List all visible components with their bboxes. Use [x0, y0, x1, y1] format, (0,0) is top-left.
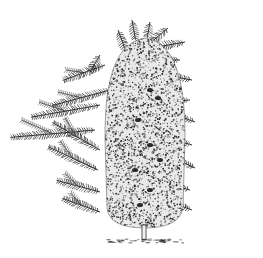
sprig: [143, 22, 153, 38]
illustration-canvas: [0, 0, 263, 258]
sprig: [56, 171, 100, 194]
conifer-tree-engraving: [0, 0, 263, 258]
sprig: [10, 117, 95, 140]
sprig: [62, 190, 100, 213]
ground-hatching: [106, 239, 184, 243]
tree-trunk: [142, 225, 146, 240]
sprig: [129, 20, 139, 40]
tree-crown: [104, 37, 186, 229]
sprig: [52, 88, 110, 108]
